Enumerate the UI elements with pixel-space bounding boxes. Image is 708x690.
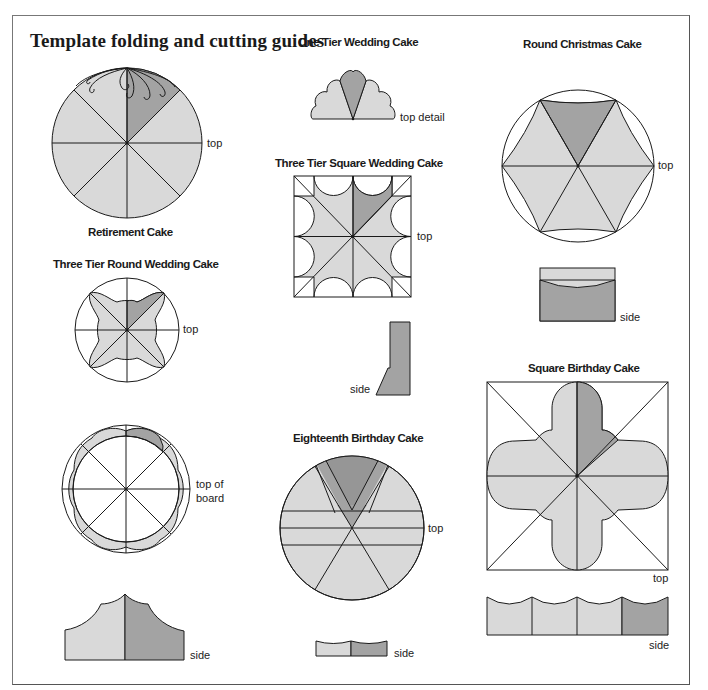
round-wedding-side-diagram [65,594,184,660]
square-birthday-cake-diagram [487,382,668,570]
top-of-board-diagram [62,425,190,553]
christmas-side-diagram [540,268,615,321]
square-wedding-side-shape [376,322,410,395]
square-birthday-side-diagram [487,597,668,635]
retirement-cake-diagram [52,68,202,218]
eighteenth-birthday-cake-diagram [280,455,424,600]
diagram-canvas: .lf{fill:#d9d9d9;stroke:#1a1a1a;stroke-w… [0,0,708,690]
three-tier-round-wedding-cake-diagram [75,278,179,382]
round-christmas-cake-diagram [502,90,654,242]
one-tier-wedding-cake-diagram [311,70,395,120]
eighteenth-side-diagram [316,641,387,656]
three-tier-square-wedding-cake-diagram [294,176,411,297]
